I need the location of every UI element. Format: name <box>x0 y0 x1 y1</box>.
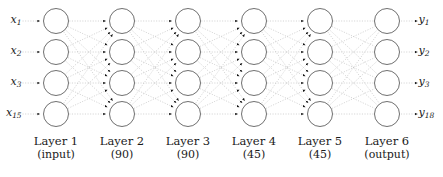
neuron-node <box>308 71 333 96</box>
label-subscript: 18 <box>425 111 434 120</box>
edge <box>196 32 245 101</box>
neural-network-figure: x1x2x3x15 y1y2y3y18 Layer 1(input)Layer … <box>0 0 443 177</box>
layer-caption-title: Layer 2 <box>100 134 144 148</box>
edge <box>200 58 239 77</box>
layer-caption-title: Layer 5 <box>298 134 342 148</box>
layer-caption-6: Layer 6(output) <box>344 134 430 161</box>
neuron-node <box>242 40 267 65</box>
input-label-x3: x3 <box>2 76 22 87</box>
neuron-node <box>44 71 69 96</box>
neuron-node <box>44 9 69 34</box>
edge <box>134 28 173 47</box>
neuron-node <box>242 9 267 34</box>
label-base: y <box>419 13 425 26</box>
edge <box>266 28 305 47</box>
edge <box>68 59 107 78</box>
layer-caption-title: Layer 6 <box>365 134 409 148</box>
label-base: y <box>419 75 425 88</box>
layer-caption-title: Layer 3 <box>166 134 210 148</box>
edge <box>266 59 305 78</box>
neuron-node <box>308 40 333 65</box>
edge <box>134 59 173 78</box>
edge <box>264 32 309 74</box>
edge <box>68 28 107 47</box>
neuron-node <box>44 40 69 65</box>
edge <box>200 89 239 108</box>
neuron-node <box>375 40 400 65</box>
neuron-node <box>110 40 135 65</box>
edge <box>134 89 173 108</box>
label-base: x <box>11 75 17 88</box>
label-subscript: 1 <box>425 18 430 27</box>
edge <box>134 27 173 46</box>
neuron-node <box>176 40 201 65</box>
label-base: x <box>11 44 17 57</box>
label-subscript: 3 <box>425 80 430 89</box>
layer-caption-subtitle: (output) <box>344 148 430 161</box>
neuron-node <box>308 9 333 34</box>
label-base: y <box>419 106 425 119</box>
edge <box>264 61 309 103</box>
edge <box>196 34 245 103</box>
neuron-node <box>242 71 267 96</box>
output-label-y1: y1 <box>419 14 430 25</box>
input-label-x15: x15 <box>2 107 22 118</box>
edge <box>134 58 173 77</box>
neuron-node <box>375 102 400 127</box>
neuron-node <box>110 71 135 96</box>
label-subscript: 2 <box>425 49 430 58</box>
neuron-node <box>242 102 267 127</box>
edge <box>266 58 305 77</box>
edges-group <box>64 21 379 114</box>
edge <box>132 32 177 74</box>
edge <box>64 32 113 101</box>
edge <box>130 32 179 101</box>
neuron-node <box>176 9 201 34</box>
neuron-node <box>110 102 135 127</box>
edge <box>68 90 107 109</box>
edge <box>68 27 107 46</box>
edge <box>66 32 111 74</box>
edge <box>200 90 239 109</box>
label-subscript: 3 <box>17 80 22 89</box>
layer-caption-title: Layer 1 <box>34 134 78 148</box>
edge <box>66 61 111 103</box>
edge <box>64 34 113 103</box>
label-subscript: 15 <box>12 111 21 120</box>
edge <box>130 34 179 103</box>
neuron-node <box>375 9 400 34</box>
edge <box>134 90 173 109</box>
edge <box>198 61 243 103</box>
label-base: y <box>419 44 425 57</box>
label-base: x <box>11 13 17 26</box>
neuron-node <box>110 9 135 34</box>
edge <box>266 89 305 108</box>
edge <box>132 61 177 103</box>
label-subscript: 1 <box>17 18 22 27</box>
neuron-node <box>176 71 201 96</box>
edge <box>262 32 311 101</box>
output-label-y18: y18 <box>419 107 435 118</box>
neuron-node <box>176 102 201 127</box>
edge <box>200 59 239 78</box>
neuron-node <box>44 102 69 127</box>
neuron-node <box>375 71 400 96</box>
edge <box>200 27 239 46</box>
input-label-x2: x2 <box>2 45 22 56</box>
layer-caption-title: Layer 4 <box>232 134 276 148</box>
neuron-node <box>308 102 333 127</box>
output-label-y2: y2 <box>419 45 430 56</box>
edge <box>266 90 305 109</box>
io-arrows-group <box>23 21 418 114</box>
edge <box>68 89 107 108</box>
edge <box>198 32 243 74</box>
edge <box>68 58 107 77</box>
edge <box>200 28 239 47</box>
input-label-x1: x1 <box>2 14 22 25</box>
edge <box>266 27 305 46</box>
label-subscript: 2 <box>17 49 22 58</box>
edge <box>262 34 311 103</box>
output-label-y3: y3 <box>419 76 430 87</box>
